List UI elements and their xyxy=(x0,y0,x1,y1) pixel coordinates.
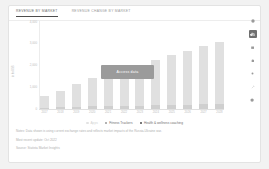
bar-segment-health-wellness-coaching xyxy=(104,106,113,109)
share-icon[interactable] xyxy=(249,70,257,78)
x-tick-label: 2018 xyxy=(56,110,65,114)
chart-card: REVENUE BY MARKET REVENUE CHANGE BY MARK… xyxy=(8,5,261,163)
tab-revenue-change-by-market[interactable]: REVENUE CHANGE BY MARKET xyxy=(72,9,131,17)
bar-segment-fitness-trackers xyxy=(72,84,81,106)
x-tick-label: 2028 xyxy=(215,110,224,114)
bar-column[interactable] xyxy=(199,21,208,109)
tab-bar: REVENUE BY MARKET REVENUE CHANGE BY MARK… xyxy=(9,6,260,21)
bar-column[interactable] xyxy=(167,21,176,109)
bar-segment-health-wellness-coaching xyxy=(151,105,160,109)
note-line: Source: Statista Market Insights xyxy=(16,147,246,150)
edit-icon[interactable] xyxy=(249,83,257,91)
bar-segment-fitness-trackers xyxy=(167,55,176,105)
y-tick-3: 3,000 xyxy=(30,41,37,45)
bar-segment-health-wellness-coaching xyxy=(40,108,49,109)
bar-segment-health-wellness-coaching xyxy=(183,105,192,110)
legend-swatch xyxy=(86,122,89,125)
bar-segment-health-wellness-coaching xyxy=(56,107,65,109)
y-tick-1: 1,000 xyxy=(30,85,37,89)
bar-segment-fitness-trackers xyxy=(40,96,49,107)
y-tick-4: 4,000 xyxy=(30,20,37,24)
x-tick-label: 2019 xyxy=(72,110,81,114)
screenshot-root: REVENUE BY MARKET REVENUE CHANGE BY MARK… xyxy=(0,0,269,169)
note-line: Most recent update: Oct 2022 xyxy=(16,139,246,142)
bar-segment-health-wellness-coaching xyxy=(215,104,224,109)
legend-label: Fitness Trackers xyxy=(109,121,132,125)
x-tick-label: 2017 xyxy=(40,110,49,114)
legend-item[interactable]: Apps xyxy=(86,121,98,125)
bar-segment-health-wellness-coaching xyxy=(167,105,176,109)
bar-segment-fitness-trackers xyxy=(183,51,192,104)
x-tick-label: 2027 xyxy=(199,110,208,114)
x-tick-label: 2021 xyxy=(104,110,113,114)
y-axis: 0 1,000 2,000 3,000 4,000 xyxy=(17,21,39,109)
bar-segment-health-wellness-coaching xyxy=(199,104,208,109)
settings-icon[interactable] xyxy=(249,57,257,65)
legend-item[interactable]: Fitness Trackers xyxy=(105,121,133,125)
bar-column[interactable] xyxy=(40,21,49,109)
bar-segment-fitness-trackers xyxy=(215,42,224,103)
chart-legend: AppsFitness TrackersHealth & wellness co… xyxy=(9,121,260,125)
bar-column[interactable] xyxy=(183,21,192,109)
x-axis-tick-labels: 2017201820192020202120222023202420252026… xyxy=(40,110,224,114)
x-tick-label: 2022 xyxy=(120,110,129,114)
bar-segment-health-wellness-coaching xyxy=(120,106,129,109)
chart-notes: Notes: Data shown is using current excha… xyxy=(16,130,246,156)
x-tick-label: 2025 xyxy=(167,110,176,114)
bar-column[interactable] xyxy=(215,21,224,109)
bar-column[interactable] xyxy=(88,21,97,109)
legend-swatch xyxy=(140,122,143,125)
legend-label: Apps xyxy=(90,121,97,125)
bar-column[interactable] xyxy=(56,21,65,109)
x-tick-label: 2023 xyxy=(135,110,144,114)
bar-segment-fitness-trackers xyxy=(56,91,65,108)
chart-toolbar xyxy=(246,17,259,104)
x-tick-label: 2024 xyxy=(151,110,160,114)
bar-segment-health-wellness-coaching xyxy=(88,106,97,109)
download-icon[interactable] xyxy=(249,96,257,104)
y-tick-2: 2,000 xyxy=(30,63,37,67)
legend-item[interactable]: Health & wellness coaching xyxy=(140,121,183,125)
table-icon[interactable] xyxy=(249,43,257,51)
access-data-label: Access data xyxy=(117,70,139,74)
note-line: Notes: Data shown is using current excha… xyxy=(16,130,246,133)
bar-segment-fitness-trackers xyxy=(199,46,208,104)
y-tick-0: 0 xyxy=(35,107,37,111)
bar-chart-icon[interactable] xyxy=(249,30,257,38)
bar-column[interactable] xyxy=(72,21,81,109)
chart-plot-area: in bn US$ 0 1,000 2,000 3,000 4,000 2017… xyxy=(9,21,260,126)
x-tick-label: 2020 xyxy=(88,110,97,114)
bar-segment-health-wellness-coaching xyxy=(135,106,144,109)
tab-revenue-by-market[interactable]: REVENUE BY MARKET xyxy=(16,9,58,17)
bar-segment-fitness-trackers xyxy=(88,78,97,106)
access-data-button[interactable]: Access data xyxy=(101,65,154,79)
legend-swatch xyxy=(105,122,108,125)
legend-label: Health & wellness coaching xyxy=(144,121,183,125)
bar-segment-health-wellness-coaching xyxy=(72,107,81,109)
x-tick-label: 2026 xyxy=(183,110,192,114)
info-icon[interactable] xyxy=(249,17,257,25)
y-axis-label: in bn US$ xyxy=(12,66,15,77)
